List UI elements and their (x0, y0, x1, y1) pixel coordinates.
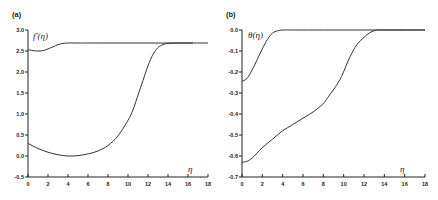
panel-b-axes: 0.0-0.1-0.2-0.3-0.4-0.5-0.6-0.7024681012… (229, 27, 429, 187)
x-tick-label: 2 (261, 181, 264, 187)
panel-a-ylabel: f′(η) (33, 31, 48, 41)
x-tick-label: 4 (66, 181, 70, 187)
panel-b-ylabel: θ(η) (248, 30, 263, 40)
x-tick-label: 4 (281, 181, 285, 187)
x-tick-label: 8 (106, 181, 109, 187)
y-tick-label: -0.1 (229, 48, 238, 54)
y-tick-label: -0.7 (229, 174, 238, 180)
y-tick-label: -0.6 (229, 153, 238, 159)
x-tick-label: 8 (322, 181, 325, 187)
y-tick-label: -0.5 (15, 174, 24, 180)
y-tick-label: -0.5 (229, 132, 238, 138)
y-tick-label: 2.0 (16, 69, 24, 75)
x-tick-label: 14 (165, 181, 172, 187)
panel-a-xlabel: η (188, 164, 193, 174)
panel-b-label: (b) (226, 10, 236, 19)
figure: (a) f′(η) η 3.02.52.01.51.00.50.0-0.5024… (0, 0, 438, 200)
x-tick-label: 16 (402, 181, 408, 187)
y-tick-label: 1.5 (16, 90, 24, 96)
panel-a-axes: 3.02.52.01.51.00.50.0-0.5024681012141618 (15, 27, 212, 187)
y-tick-label: 0.5 (16, 132, 24, 138)
y-tick-label: 0.0 (230, 27, 238, 33)
x-tick-label: 2 (46, 181, 49, 187)
x-tick-label: 6 (86, 181, 89, 187)
panel-b-xlabel: η (400, 164, 405, 174)
y-tick-label: 2.5 (16, 48, 24, 54)
y-tick-label: -0.4 (229, 111, 239, 117)
y-tick-label: 3.0 (16, 27, 24, 33)
panel-a-curves (28, 43, 208, 156)
y-tick-label: -0.3 (229, 90, 238, 96)
panel-b: (b) θ(η) η 0.0-0.1-0.2-0.3-0.4-0.5-0.6-0… (226, 10, 428, 187)
x-tick-label: 6 (301, 181, 304, 187)
series-line (242, 30, 425, 82)
x-tick-label: 10 (125, 181, 131, 187)
x-tick-label: 12 (361, 181, 367, 187)
series-line (28, 43, 193, 156)
y-tick-label: 0.0 (16, 153, 24, 159)
x-tick-label: 0 (240, 181, 243, 187)
x-tick-label: 12 (145, 181, 151, 187)
x-tick-label: 14 (381, 181, 388, 187)
panel-b-curves (242, 30, 425, 162)
panel-a-label: (a) (12, 10, 22, 19)
series-line (242, 30, 425, 162)
y-tick-label: 1.0 (16, 111, 24, 117)
y-tick-label: -0.2 (229, 69, 238, 75)
x-tick-label: 18 (205, 181, 211, 187)
panel-a: (a) f′(η) η 3.02.52.01.51.00.50.0-0.5024… (12, 10, 211, 187)
x-tick-label: 0 (26, 181, 29, 187)
x-tick-label: 18 (422, 181, 428, 187)
series-line (28, 43, 208, 51)
x-tick-label: 16 (185, 181, 191, 187)
x-tick-label: 10 (341, 181, 347, 187)
